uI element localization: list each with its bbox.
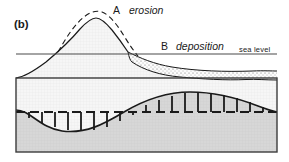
geological-cross-section-figure: (b) A erosion B deposition sea level [0,0,289,162]
deposition-term-label: deposition [176,41,224,52]
erosion-key-label: A [113,5,120,16]
erosion-term-label: erosion [129,5,163,16]
cross-section-drawing [0,0,289,162]
deposition-key-label: B [161,41,168,52]
sea-level-label: sea level [239,46,270,54]
panel-label: (b) [14,19,29,31]
